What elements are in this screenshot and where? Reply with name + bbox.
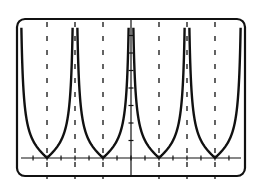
graph-plot xyxy=(0,0,253,182)
calculator-graph-screen xyxy=(0,0,253,182)
